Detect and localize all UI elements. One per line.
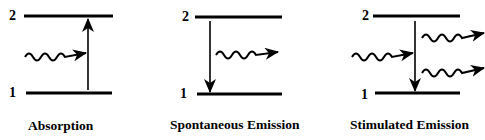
lower-level-label: 1 [361,87,368,103]
upper-level-label: 2 [362,8,369,24]
panel-absorption [24,16,113,93]
incoming-photon-wave-icon [25,53,86,61]
panel-spontaneous-emission [195,17,282,94]
upper-level-label: 2 [182,9,189,25]
caption-absorption: Absorption [28,118,93,134]
emitted-photon-wave-icon [422,68,484,77]
energy-level-diagram: 2 1 2 1 2 1 Absorption Spontaneous Emiss… [0,0,485,140]
caption-stimulated-emission: Stimulated Emission [350,117,469,133]
panel-stimulated-emission [352,16,484,93]
incoming-photon-wave-icon [352,53,413,61]
caption-spontaneous-emission: Spontaneous Emission [170,117,299,133]
upper-level-label: 2 [9,8,16,24]
emitted-photon-wave-icon [216,52,278,59]
lower-level-label: 1 [9,85,16,101]
lower-level-label: 1 [180,86,187,102]
emitted-photon-wave-icon [422,33,484,42]
